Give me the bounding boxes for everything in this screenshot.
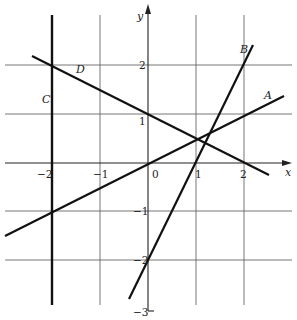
tick-x-neg1: −1 — [93, 168, 108, 180]
tick-y-neg3: −3 — [133, 306, 148, 318]
line-d — [32, 56, 269, 175]
tick-x-0: 0 — [152, 168, 159, 180]
tick-y-1: 1 — [139, 115, 146, 127]
line-b-label: B — [239, 43, 248, 56]
y-axis-label: y — [136, 10, 144, 23]
x-axis-label: x — [285, 166, 292, 179]
tick-y-2: 2 — [139, 59, 146, 71]
line-a-label: A — [263, 89, 272, 102]
line-d-label: D — [75, 63, 85, 76]
tick-y-neg1: −1 — [133, 205, 148, 217]
tick-x-neg2: −2 — [37, 168, 52, 180]
coordinate-plane: y x B A C D −2 −1 0 1 2 2 1 −1 −2 −3 — [0, 0, 297, 320]
tick-y-neg2: −2 — [133, 254, 148, 266]
tick-x-1: 1 — [195, 168, 202, 180]
y-axis-arrow-icon — [145, 4, 151, 14]
line-c-label: C — [42, 93, 51, 106]
tick-x-2: 2 — [240, 168, 247, 180]
